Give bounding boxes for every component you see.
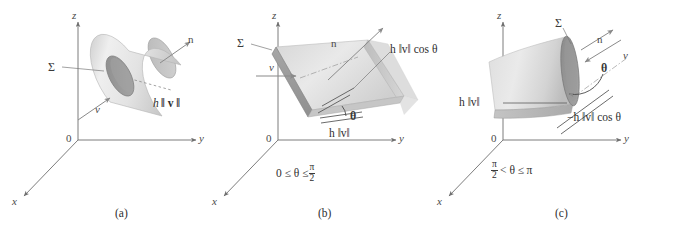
y-axis-label-c: y [624, 133, 629, 144]
x-axis-a [24, 140, 78, 196]
panel-b-graphic [218, 0, 448, 234]
condition-b-text: 0 ≤ θ ≤ [276, 167, 309, 179]
velocity-label-a: v [95, 104, 100, 115]
condition-c: π2 < θ ≤ π [491, 160, 532, 181]
height-formula-c: h ‖v‖ [459, 97, 480, 109]
projection-formula-c: −h ‖v‖ cos θ [567, 112, 621, 124]
base-segment-2-b [321, 117, 363, 123]
y-axis-label-a: y [199, 133, 204, 144]
velocity-arrow-c [585, 40, 621, 62]
z-axis-label-a: z [72, 10, 76, 21]
normal-label-c: n [597, 34, 603, 45]
panel-c-graphic [445, 0, 674, 234]
sigma-label-a: Σ [48, 61, 55, 73]
panel-a: z y x 0 Σ n v h ‖ v ‖ (a) [0, 0, 225, 234]
velocity-label-b: v [269, 62, 274, 73]
sigma-label-b: Σ [237, 37, 244, 49]
theta-label-b: θ [350, 110, 356, 122]
condition-c-mid: < θ ≤ [500, 164, 524, 176]
norm-v-a: ‖ v ‖ [161, 97, 180, 109]
condition-b-fraction: π2 [309, 163, 316, 184]
figure-container: z y x 0 Σ n v h ‖ v ‖ (a) [0, 0, 674, 234]
origin-label-a: 0 [66, 133, 72, 144]
condition-c-denominator: 2 [491, 171, 498, 181]
panel-caption-c: (c) [555, 208, 568, 220]
y-axis-label-b: y [399, 133, 404, 144]
theta-label-c: θ [601, 62, 607, 74]
velocity-label-c: v [623, 50, 628, 61]
condition-b-denominator: 2 [309, 174, 316, 184]
base-formula-b: h ‖v‖ [329, 128, 350, 140]
sigma-leader-b [251, 44, 272, 50]
origin-label-c: 0 [491, 133, 497, 144]
panel-caption-b: (b) [318, 208, 331, 220]
x-axis-label-a: x [12, 196, 17, 207]
x-axis-label-b: x [212, 196, 217, 207]
origin-label-b: 0 [266, 133, 272, 144]
condition-c-fraction: π2 [491, 160, 498, 181]
x-axis-label-c: x [437, 196, 442, 207]
condition-c-right: π [526, 164, 532, 176]
z-axis-label-b: z [272, 10, 276, 21]
condition-b: 0 ≤ θ ≤π2 [276, 163, 315, 184]
normal-label-a: n [188, 34, 194, 45]
velocity-arrow-a [78, 98, 110, 120]
panel-caption-a: (a) [115, 208, 128, 220]
slant-formula-b: h ‖v‖ cos θ [390, 44, 437, 56]
normal-label-b: n [331, 38, 337, 49]
sigma-label-c: Σ [555, 17, 562, 29]
z-axis-label-c: z [497, 10, 501, 21]
height-formula-a: h ‖ v ‖ [153, 98, 180, 110]
panel-c: z y x 0 Σ n v θ h ‖v‖ −h ‖v‖ cos θ π2 < … [445, 0, 674, 234]
panel-b: z y x 0 Σ n v θ h ‖v‖ cos θ h ‖v‖ 0 ≤ θ … [218, 0, 448, 234]
x-axis-b [224, 140, 278, 196]
